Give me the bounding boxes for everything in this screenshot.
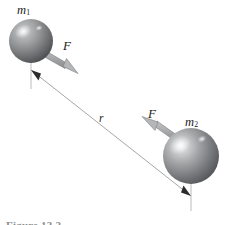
figure-caption: Figure 13.2 xyxy=(6,214,216,225)
label-mass-one-symbol: m xyxy=(17,3,26,17)
sphere-mass-one xyxy=(9,19,53,63)
sphere-one-body xyxy=(9,19,53,63)
figure-canvas xyxy=(0,0,231,225)
label-mass-two: m2 xyxy=(185,116,198,129)
force-arrow-one-head xyxy=(63,59,78,74)
label-mass-one-subscript: 1 xyxy=(26,8,30,17)
label-force-one: F xyxy=(63,39,71,52)
separation-arrowhead-start xyxy=(31,70,41,81)
separation-arrowhead-end xyxy=(181,186,191,197)
label-force-two: F xyxy=(148,107,156,120)
label-mass-one: m1 xyxy=(17,4,30,17)
sphere-mass-two xyxy=(163,128,219,184)
sphere-two-body xyxy=(163,128,219,184)
label-mass-two-symbol: m xyxy=(185,115,194,129)
physics-figure-gravitation: m1 m2 F F r Figure 13.2 xyxy=(0,0,231,225)
label-mass-two-subscript: 2 xyxy=(194,120,198,129)
label-separation-distance: r xyxy=(99,113,103,125)
